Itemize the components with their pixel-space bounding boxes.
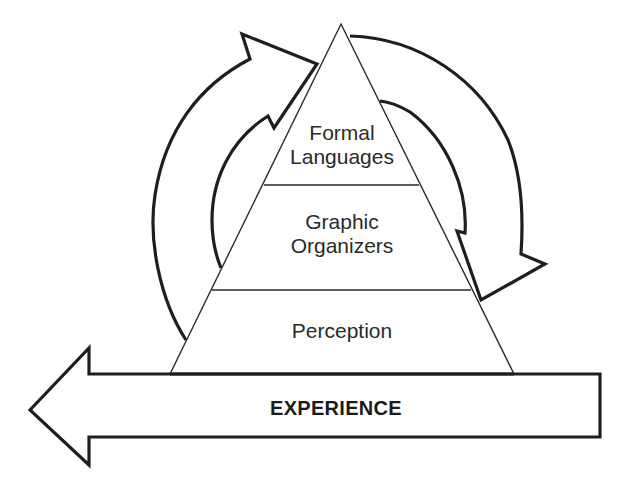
experience-label-text: EXPERIENCE [200, 396, 472, 420]
pyramid-level-graphic-organizers: Graphic Organizers [242, 210, 442, 258]
pyramid-level-formal-languages: Formal Languages [242, 121, 442, 169]
level-label-line: Perception [242, 319, 442, 343]
level-label-line: Languages [242, 145, 442, 169]
level-label-line: Graphic [242, 210, 442, 234]
experience-label: EXPERIENCE [200, 396, 472, 420]
pyramid-level-perception: Perception [242, 319, 442, 343]
level-label-line: Formal [242, 121, 442, 145]
level-label-line: Organizers [242, 234, 442, 258]
